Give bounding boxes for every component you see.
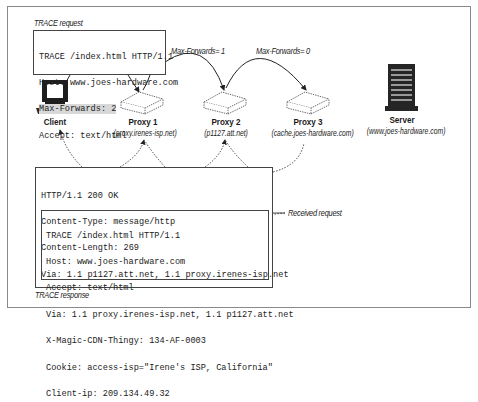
body-x-magic-cdn-header: X-Magic-CDN-Thingy: 134-AF-0003 [46,337,268,346]
node-client-name: Client [42,116,68,127]
body-via-header: Via: 1.1 proxy.irenes-isp.net, 1.1 p1127… [46,311,268,320]
node-server-name: Server [388,114,417,125]
request-line: TRACE /index.html HTTP/1.1 [39,53,165,62]
hop-label-max-forwards-0: Max-Forwards= 0 [256,46,310,56]
response-arrow-to-proxy2 [226,141,248,167]
trace-request-box: TRACE /index.html HTTP/1.1 Host: www.joe… [33,30,166,75]
server-icon [385,64,418,111]
node-proxy3-host: (cache.joes-hardware.com) [271,128,346,138]
request-host-header: Host: www.joes-hardware.com [39,79,165,88]
proxy-box-icon [287,92,329,114]
proxy-box-icon [204,92,246,114]
trace-response-box: HTTP/1.1 200 OK Content-Type: message/ht… [35,167,273,288]
response-arrow-from-proxy2 [205,140,225,167]
response-arrow-from-proxy3 [273,143,304,172]
hop-label-max-forwards-1: Max-Forwards= 1 [171,46,225,56]
request-max-forwards-header: Max-Forwards: 2 [39,104,116,114]
received-request-caption: Received request [288,208,342,218]
body-cookie-header: Cookie: access-isp="Irene's ISP, Califor… [46,364,268,373]
trace-request-caption: TRACE request [34,18,82,28]
node-server-host: (www.joes-hardware.com) [367,126,437,136]
node-proxy2-name: Proxy 2 [211,116,242,127]
node-proxy1-name: Proxy 1 [128,116,159,127]
body-request-line: TRACE /index.html HTTP/1.1 [46,232,268,241]
body-client-ip-header: Client-ip: 209.134.49.32 [46,390,268,399]
received-request-body: TRACE /index.html HTTP/1.1 Host: www.joe… [41,210,269,280]
request-arrow-proxy2-to-proxy3 [226,58,306,90]
node-proxy2-host: (p1127.att.net) [203,128,249,138]
node-proxy3-name: Proxy 3 [293,116,324,127]
response-status-line: HTTP/1.1 200 OK [41,192,272,201]
body-host-header: Host: www.joes-hardware.com [46,258,268,267]
body-accept-header: Accept: text/html [46,284,268,293]
node-proxy1-host: (proxy.irenes-isp.net) [113,128,172,138]
